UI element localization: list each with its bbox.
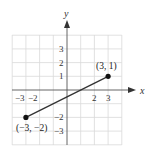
y-axis-label: y: [63, 8, 69, 19]
y-axis: [64, 20, 70, 145]
x-tick-neg2: −2: [28, 93, 38, 103]
y-tick-1: 1: [59, 71, 64, 81]
x-tick-3: 3: [106, 93, 111, 103]
y-tick-neg2: −2: [54, 112, 64, 122]
point-b-label: (3, 1): [96, 61, 117, 72]
y-tick-3: 3: [59, 44, 64, 54]
point-b: [106, 74, 111, 79]
y-tick-neg3: −3: [54, 126, 64, 136]
coordinate-plane: x y −3 −2 2 3 3 2 1 −2 −3 (−3, −2) (3, 1…: [0, 0, 151, 152]
x-axis-arrow-icon: [128, 87, 136, 93]
point-a-label: (−3, −2): [16, 123, 47, 134]
x-axis-label: x: [139, 85, 145, 96]
y-tick-2: 2: [59, 58, 64, 68]
y-axis-arrow-icon: [64, 20, 70, 28]
point-a: [23, 115, 28, 120]
x-tick-neg3: −3: [15, 93, 25, 103]
x-tick-2: 2: [92, 93, 97, 103]
